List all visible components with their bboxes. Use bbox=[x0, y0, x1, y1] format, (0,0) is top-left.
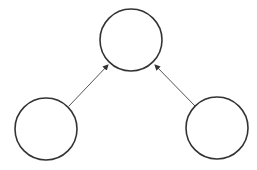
node-circle bbox=[186, 97, 248, 159]
edge-arrow-bottom-right-to-top bbox=[155, 65, 195, 106]
node-circle bbox=[15, 98, 77, 160]
nodes-layer bbox=[15, 9, 248, 160]
edge-arrow-bottom-left-to-top bbox=[69, 65, 108, 106]
node-bottom-left bbox=[15, 98, 77, 160]
diagram-canvas bbox=[0, 0, 257, 170]
node-circle bbox=[100, 9, 162, 71]
node-top bbox=[100, 9, 162, 71]
node-bottom-right bbox=[186, 97, 248, 159]
